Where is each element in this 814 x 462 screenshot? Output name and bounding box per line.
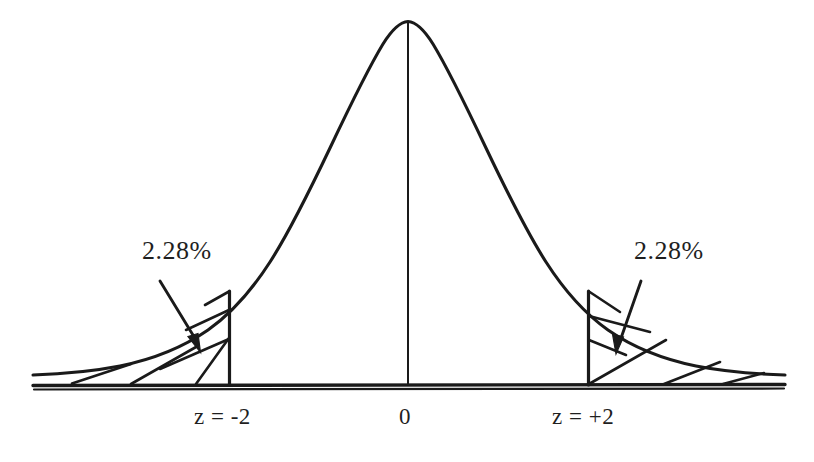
distribution-drawing <box>0 0 814 462</box>
axis-tick-label-zero: 0 <box>399 404 411 430</box>
left-tail-percent-label: 2.28% <box>142 236 212 266</box>
right-tail-percent-label: 2.28% <box>634 236 704 266</box>
normal-distribution-figure: 2.28% 2.28% z = -2 0 z = +2 <box>0 0 814 462</box>
axis-tick-label-z-minus-2: z = -2 <box>194 404 251 430</box>
axis-baseline-shadow <box>34 389 784 390</box>
axis-tick-label-z-plus-2: z = +2 <box>552 404 614 430</box>
left-annotation-arrow <box>160 281 201 353</box>
